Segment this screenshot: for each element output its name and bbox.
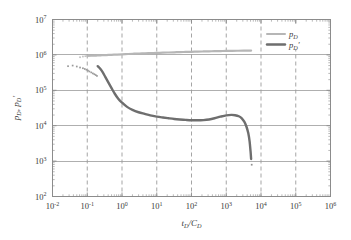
- data-point: [90, 72, 92, 74]
- data-point: [89, 71, 91, 73]
- data-point: [82, 56, 84, 58]
- data-point: [67, 65, 69, 67]
- y-axis-title: pD, pD′: [11, 95, 22, 121]
- log-log-chart: 10-210-110010110210310410510610210310410…: [0, 0, 351, 240]
- data-point: [76, 66, 78, 68]
- data-point: [79, 67, 81, 69]
- data-point: [96, 75, 98, 77]
- chart-plot-area: 10-210-110010110210310410510610210310410…: [0, 0, 351, 240]
- data-point: [84, 55, 86, 57]
- data-point: [82, 67, 84, 69]
- data-point: [79, 56, 81, 58]
- data-point: [251, 164, 253, 166]
- data-point: [84, 68, 86, 70]
- figure-container: 10-210-110010110210310410510610210310410…: [0, 0, 351, 240]
- data-point: [72, 65, 74, 67]
- y-axis-title-group: pD, pD′: [11, 95, 22, 121]
- data-point: [92, 73, 94, 75]
- legend: pDpD′: [262, 26, 328, 51]
- data-point: [86, 69, 88, 71]
